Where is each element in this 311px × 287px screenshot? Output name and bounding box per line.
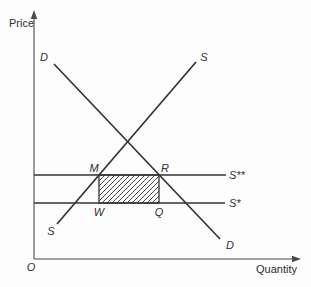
point-label-w: W	[94, 206, 106, 218]
demand-label-bottom: D	[226, 239, 234, 251]
point-label-m: M	[89, 162, 99, 174]
supply-label-bottom: S	[47, 225, 55, 237]
x-axis-arrow-icon	[292, 256, 301, 262]
point-label-q: Q	[155, 206, 164, 218]
world-price-upper-label: S**	[229, 169, 246, 181]
hatched-welfare-rectangle	[99, 175, 159, 203]
origin-label: O	[27, 261, 36, 273]
demand-label-top: D	[40, 51, 48, 63]
demand-curve	[54, 64, 220, 239]
price-axis-label: Price	[9, 17, 34, 29]
quantity-axis-label: Quantity	[256, 263, 297, 275]
supply-demand-figure: Price Quantity O D D S S S** S* M R W Q	[0, 0, 311, 287]
supply-demand-diagram: Price Quantity O D D S S S** S* M R W Q	[0, 0, 311, 287]
supply-label-top: S	[200, 51, 208, 63]
world-price-lower-label: S*	[229, 197, 241, 209]
point-label-r: R	[161, 162, 169, 174]
